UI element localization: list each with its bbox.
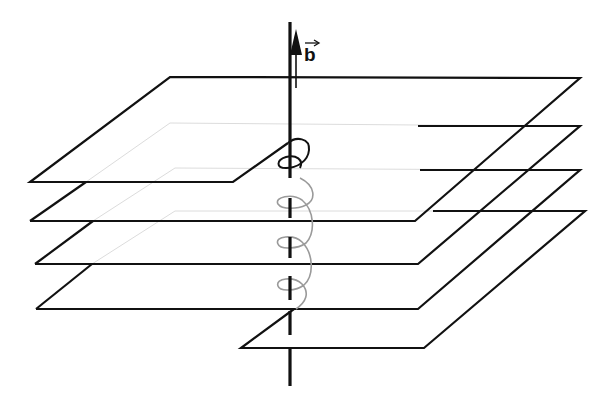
burgers-vector-label: b (304, 40, 319, 65)
burgers-vector-arrow (290, 29, 302, 88)
plane-3 (35, 170, 580, 309)
helix-back (277, 178, 312, 309)
plane-4 (36, 211, 585, 348)
vector-label-b: b (304, 44, 316, 65)
plane-1 (30, 77, 580, 221)
helix-front (279, 139, 310, 168)
screw-dislocation-diagram: Screw dislocation with Burgers vector al… (0, 0, 616, 402)
hidden-lines (86, 123, 555, 264)
arrow-head-icon (290, 29, 302, 55)
